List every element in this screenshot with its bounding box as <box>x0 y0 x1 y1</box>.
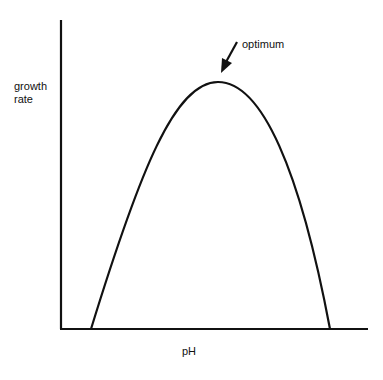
growth-rate-diagram <box>0 0 383 380</box>
y-axis-label-line2: rate <box>14 93 47 106</box>
x-axis-label: pH <box>182 345 196 358</box>
optimum-arrow-icon <box>221 42 237 73</box>
y-axis-label-line1: growth <box>14 80 47 93</box>
y-axis-label: growth rate <box>14 80 47 106</box>
optimum-label: optimum <box>242 38 284 51</box>
growth-curve <box>91 82 330 329</box>
